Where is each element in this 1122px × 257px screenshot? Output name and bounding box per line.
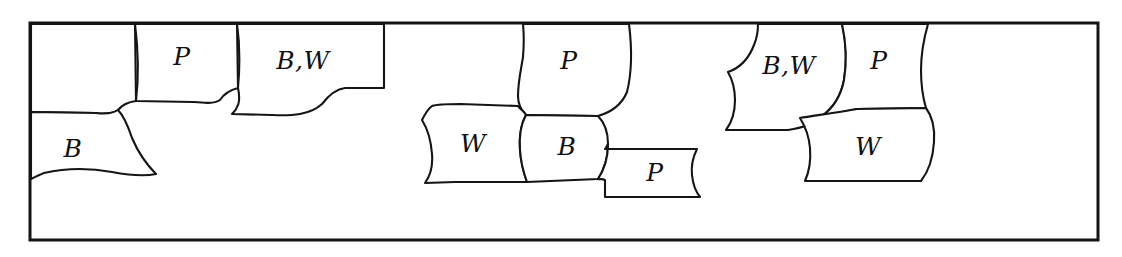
cell-label-L2: P (172, 42, 191, 71)
cluster-right: B,W P W (726, 24, 934, 181)
cell-label-L3: B,W (275, 46, 331, 75)
cell-label-R3: W (855, 132, 883, 161)
cell-label-M3: B (557, 132, 577, 161)
cluster-middle: P W B P (422, 24, 700, 197)
cell-label-R1: B,W (761, 51, 817, 80)
cell-L1-unlabeled[interactable] (31, 24, 136, 114)
sketch-canvas: P B,W B P W B P B,W (0, 0, 1122, 257)
cluster-left: P B,W B (31, 24, 384, 179)
cell-L4-B[interactable] (31, 110, 156, 179)
cell-label-L4: B (63, 134, 83, 163)
hand-drawn-diagram: P B,W B P W B P B,W (0, 0, 1122, 257)
cell-label-M4: P (645, 158, 664, 187)
cell-label-M1: P (559, 46, 578, 75)
cell-label-R2: P (869, 46, 888, 75)
cell-label-M2: W (460, 129, 488, 158)
